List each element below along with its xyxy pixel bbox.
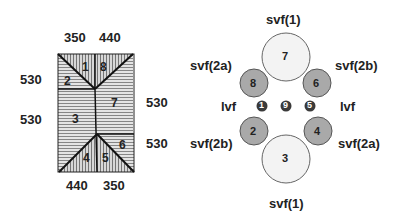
region-label-4: 4 (83, 151, 90, 165)
region-label-2: 2 (64, 74, 71, 88)
top-label-2: 440 (99, 30, 121, 45)
label-svf1-top: svf(1) (266, 12, 301, 27)
region-map (58, 54, 134, 172)
region-label-1: 1 (82, 60, 89, 74)
label-lvf-left: lvf (221, 99, 236, 114)
circle-label-1: 1 (259, 100, 264, 110)
label-lvf-right: lvf (340, 99, 355, 114)
left-label-2: 530 (20, 112, 42, 127)
bottom-label-1: 440 (66, 178, 88, 193)
region-label-5: 5 (102, 151, 109, 165)
right-label-1: 530 (146, 95, 168, 110)
left-label-1: 530 (20, 72, 42, 87)
top-label-1: 350 (64, 30, 86, 45)
circle-label-9: 9 (283, 100, 288, 110)
circle-label-5: 5 (307, 100, 312, 110)
label-svf2a-upper: svf(2a) (190, 58, 232, 73)
label-svf2a-lower: svf(2a) (338, 136, 380, 151)
circle-label-4: 4 (314, 125, 320, 137)
label-svf2b-lower: svf(2b) (190, 136, 233, 151)
circle-label-3: 3 (282, 152, 288, 164)
bottom-label-2: 350 (103, 178, 125, 193)
circle-label-8: 8 (250, 77, 256, 89)
label-svf1-bottom: svf(1) (269, 196, 304, 211)
region-label-7: 7 (111, 96, 118, 110)
circle-label-2: 2 (250, 125, 256, 137)
region-label-8: 8 (100, 60, 107, 74)
region-label-6: 6 (119, 138, 126, 152)
right-label-2: 530 (146, 136, 168, 151)
label-svf2b-upper: svf(2b) (335, 58, 378, 73)
circle-label-7: 7 (282, 50, 288, 62)
region-label-3: 3 (72, 112, 79, 126)
circle-label-6: 6 (313, 77, 319, 89)
